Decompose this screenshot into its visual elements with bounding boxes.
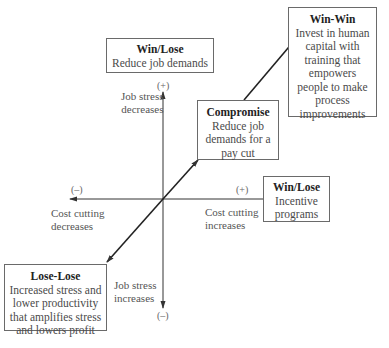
compromise-box: Compromise Reduce job demands for a pay …: [197, 100, 279, 160]
win-win-title: Win-Win: [289, 13, 376, 27]
job-stress-increases-label: Job stress increases: [114, 279, 156, 305]
lose-lose-body-line: and lowers profit: [5, 324, 106, 338]
win-lose-right-body-line: Incentive: [264, 195, 329, 209]
lose-lose-box: Lose-Lose Increased stress and lower pro…: [4, 264, 107, 331]
win-lose-top-body: Reduce job demands: [107, 57, 213, 71]
win-lose-right-box: Win/Lose Incentive programs: [263, 176, 330, 222]
win-win-box: Win-Win Invest in human capital with tra…: [288, 7, 377, 117]
lose-lose-title: Lose-Lose: [5, 270, 106, 284]
win-lose-top-title: Win/Lose: [107, 43, 213, 57]
label-line: Job stress: [114, 279, 156, 292]
horizontal-left-sign: (–): [71, 184, 83, 195]
label-line: Cost cutting: [205, 206, 258, 219]
horizontal-right-sign: (+): [236, 184, 248, 195]
label-line: Cost cutting: [51, 207, 104, 220]
win-lose-right-body-line: programs: [264, 208, 329, 222]
lose-lose-body-line: Increased stress and: [5, 284, 106, 298]
compromise-title: Compromise: [198, 106, 278, 120]
vertical-bottom-sign: (–): [157, 310, 169, 321]
win-lose-right-title: Win/Lose: [264, 181, 329, 195]
win-win-body-line: improvements: [289, 108, 376, 122]
lose-lose-body-line: that amplifies stress: [5, 311, 106, 325]
label-line: Job stress: [121, 90, 163, 103]
label-line: increases: [205, 219, 258, 232]
win-win-body-line: empowers: [289, 67, 376, 81]
win-win-body-line: Invest in human: [289, 27, 376, 41]
job-stress-decreases-label: Job stress decreases: [121, 90, 163, 116]
win-lose-top-box: Win/Lose Reduce job demands: [106, 38, 214, 73]
cost-cutting-decreases-label: Cost cutting decreases: [51, 207, 104, 233]
lose-lose-body-line: lower productivity: [5, 297, 106, 311]
label-line: decreases: [51, 220, 104, 233]
label-line: increases: [114, 292, 156, 305]
win-win-body-line: training that: [289, 54, 376, 68]
win-win-body-line: people to make: [289, 81, 376, 95]
compromise-body-line: Reduce job: [198, 120, 278, 134]
cost-cutting-increases-label: Cost cutting increases: [205, 206, 258, 232]
win-win-body-line: capital with: [289, 40, 376, 54]
compromise-body-line: pay cut: [198, 147, 278, 161]
compromise-body-line: demands for a: [198, 133, 278, 147]
label-line: decreases: [121, 103, 163, 116]
win-win-body-line: process: [289, 94, 376, 108]
diagonal-arrow-to-lose-lose: [107, 199, 163, 262]
diagonal-arrow-to-compromise: [163, 160, 198, 199]
